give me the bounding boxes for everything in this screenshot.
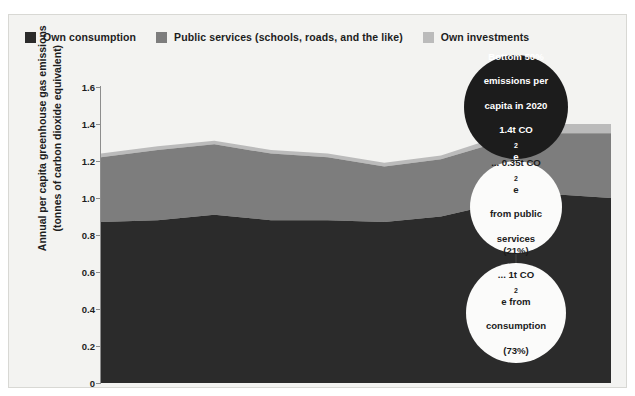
legend-swatch-own-investments	[423, 32, 434, 43]
y-axis-title: Annual per capita greenhouse gas emissio…	[35, 14, 65, 283]
callout-consumption-line3: (73%)	[478, 345, 554, 357]
callout-consumption-line2: consumption	[478, 320, 554, 332]
y-tick-mark-1.2	[96, 161, 101, 162]
y-axis-title-line2: (tonnes of carbon dioxide equivalent)	[50, 14, 65, 283]
y-tick-mark-1.4	[96, 124, 101, 125]
chart-panel: Own consumption Public services (schools…	[8, 14, 627, 388]
callout-total-line1: Bottom 50%	[476, 51, 557, 63]
legend-swatch-public-services	[156, 32, 167, 43]
y-tick-mark-0.8	[96, 235, 101, 236]
callout-public-post: e	[478, 184, 554, 196]
callout-public-line2: from public	[478, 208, 554, 220]
y-tick-mark-1.0	[96, 198, 101, 199]
callout-total-line3: capita in 2020	[476, 100, 557, 112]
y-tick-mark-1.6	[96, 87, 101, 88]
y-tick-0: 0	[90, 378, 95, 389]
y-tick-0.4: 0.4	[82, 304, 95, 315]
callout-public-sub: 2	[514, 175, 518, 182]
y-tick-mark-0.4	[96, 309, 101, 310]
y-tick-0.8: 0.8	[82, 230, 95, 241]
y-axis-title-line1: Annual per capita greenhouse gas emissio…	[35, 14, 50, 283]
callout-public-pre: ... 0.35t CO	[478, 157, 554, 169]
y-tick-0.6: 0.6	[82, 267, 95, 278]
callout-consumption-share: ... 1t CO2e from consumption (73%)	[466, 263, 566, 363]
callout-consumption-pre: ... 1t CO	[478, 269, 554, 281]
legend-item-public-services: Public services (schools, roads, and the…	[156, 31, 403, 43]
callout-total-line2: emissions per	[476, 75, 557, 87]
callout-consumption-post: e from	[478, 296, 554, 308]
callout-public-services-share: ... 0.35t CO2e from public services (21%…	[470, 161, 562, 253]
y-tick-1.2: 1.2	[82, 156, 95, 167]
callout-total-value-sub: 2	[514, 142, 518, 149]
callout-total-2020: Bottom 50% emissions per capita in 2020 …	[464, 55, 568, 159]
y-tick-1.6: 1.6	[82, 82, 95, 93]
y-tick-mark-0	[96, 383, 101, 384]
y-tick-mark-0.6	[96, 272, 101, 273]
y-tick-1.4: 1.4	[82, 119, 95, 130]
callout-consumption-sub: 2	[514, 287, 518, 294]
y-tick-1.0: 1.0	[82, 193, 95, 204]
legend-label-public-services: Public services (schools, roads, and the…	[174, 31, 403, 43]
y-tick-mark-0.2	[96, 346, 101, 347]
y-tick-0.2: 0.2	[82, 341, 95, 352]
legend-label-own-investments: Own investments	[441, 31, 529, 43]
callout-public-line3: services (21%)	[478, 233, 554, 258]
callout-total-value-pre: 1.4t CO	[476, 124, 557, 136]
chart-legend: Own consumption Public services (schools…	[25, 31, 549, 43]
legend-item-own-investments: Own investments	[423, 31, 529, 43]
